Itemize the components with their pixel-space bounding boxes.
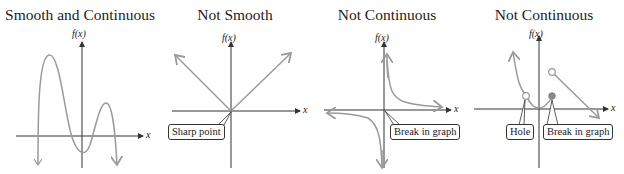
hole-open-circle xyxy=(523,93,530,100)
callout-break-in-graph: Break in graph xyxy=(543,124,613,140)
panel-not-continuous-hole-jump: Not Continuous f(x) x Hole Break in grap… xyxy=(464,0,624,174)
curve-left-branch xyxy=(175,55,231,111)
graph-smooth-continuous xyxy=(0,0,160,174)
curve-right-branch xyxy=(231,53,291,111)
y-axis-label: f(x) xyxy=(529,28,543,39)
x-axis-label: x xyxy=(454,103,458,114)
jump-closed-circle xyxy=(549,93,556,100)
x-axis-label: x xyxy=(611,102,615,113)
callout-sharp-point: Sharp point xyxy=(168,124,225,140)
smooth-curve xyxy=(38,55,117,165)
x-axis-label: x xyxy=(146,129,150,140)
y-axis-label: f(x) xyxy=(222,32,236,43)
curve-lower-branch xyxy=(327,113,382,166)
callout-pointer-hole xyxy=(519,100,525,125)
graph-not-continuous-hole-jump xyxy=(464,0,624,174)
jump-open-circle xyxy=(549,69,556,76)
curve-left-piece xyxy=(513,52,526,96)
callout-break-in-graph: Break in graph xyxy=(390,124,460,140)
callout-pointer-break xyxy=(547,100,558,125)
curve-right-piece xyxy=(554,74,599,118)
y-axis-label: f(x) xyxy=(72,28,86,39)
x-axis-label: x xyxy=(303,104,307,115)
callout-pointer xyxy=(385,111,400,125)
curve-upper-branch xyxy=(387,60,442,107)
panel-not-smooth: Not Smooth f(x) x Sharp point xyxy=(160,0,310,174)
panel-not-continuous-asymptote: Not Continuous f(x) x Break in graph xyxy=(310,0,464,174)
y-axis-label: f(x) xyxy=(375,32,389,43)
panel-smooth-continuous: Smooth and Continuous f(x) x xyxy=(0,0,160,174)
callout-hole: Hole xyxy=(506,124,534,140)
graph-not-continuous-asymptote xyxy=(310,0,464,174)
graph-not-smooth xyxy=(160,0,310,174)
